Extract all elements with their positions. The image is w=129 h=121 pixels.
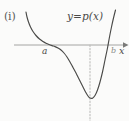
polynomial-curve <box>26 10 116 98</box>
root-b-label: b <box>111 47 116 55</box>
math-figure-container: (i) y=p(x) a b x <box>0 0 129 121</box>
x-axis-label: x <box>119 46 124 56</box>
figure-svg <box>0 0 129 121</box>
figure-part-label: (i) <box>4 11 16 22</box>
curve-equation-label: y=p(x) <box>67 11 103 22</box>
root-a-label: a <box>42 47 47 56</box>
